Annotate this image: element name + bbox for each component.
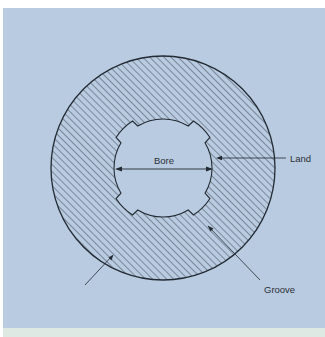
barrel-cross-section-diagram: Bore Land Groove bbox=[0, 0, 325, 337]
land-label: Land bbox=[290, 153, 311, 164]
bore-label: Bore bbox=[154, 155, 174, 166]
bore-opening bbox=[114, 119, 212, 217]
groove-label: Groove bbox=[264, 284, 295, 295]
